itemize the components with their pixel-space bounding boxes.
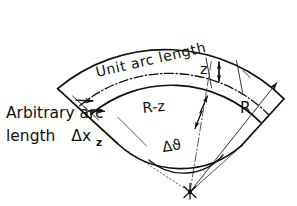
rz-band-group: R-z: [91, 85, 261, 122]
R-dimension-group: R: [190, 83, 277, 193]
z-dimension-group: z: [200, 58, 250, 92]
unit-arc-length-label: Unit arc length: [94, 39, 207, 80]
arbitrary-arc-leader-line: [118, 118, 147, 147]
angle-group: Δϑ: [117, 136, 242, 192]
arbitrary-arc-length-word: length: [6, 127, 55, 145]
arrowhead-rz-top: [200, 96, 208, 113]
radius-inner-label: R-z: [142, 98, 166, 116]
arbitrary-arc-delta-x: Δx: [71, 127, 91, 145]
arbitrary-arc-subscript: z: [96, 136, 102, 148]
arrowhead-unit-arc-left: [76, 100, 93, 101]
arbitrary-arc-label-line1: Arbitrary arc: [6, 104, 104, 122]
technical-diagram: Unit arc length R-z z: [0, 0, 297, 206]
offset-z-label: z: [200, 61, 208, 77]
apex-dot: [188, 190, 192, 194]
arbitrary-arc-label-line2: length Δx z: [6, 127, 102, 148]
apex-marker: [184, 184, 196, 200]
arc-band-top: [91, 85, 261, 122]
R-dimension-line: [190, 83, 277, 193]
angle-right-line: [190, 146, 242, 192]
sector-diagram-canvas: Unit arc length R-z z: [0, 0, 297, 206]
z-extension-right: [237, 61, 243, 93]
angle-label: Δϑ: [161, 136, 182, 154]
radius-outer-label: R: [240, 99, 251, 117]
arbitrary-arc-length-group: Arbitrary arc length Δx z: [6, 104, 147, 148]
